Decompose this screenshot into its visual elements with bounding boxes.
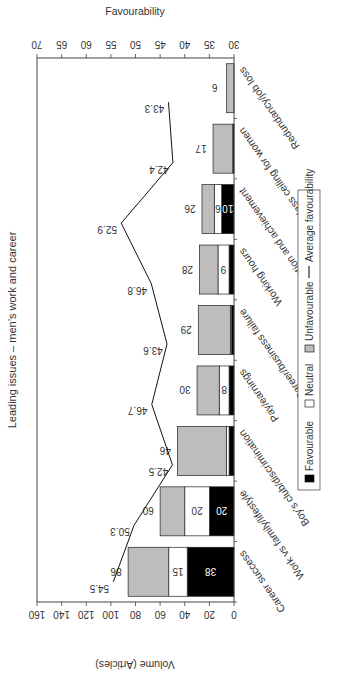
volume-tick-label: 40 — [179, 609, 191, 620]
volume-tick-label: 20 — [203, 609, 215, 620]
legend-swatch-unfavourable-icon — [305, 345, 314, 352]
bar-segment-unfavourable — [128, 547, 169, 596]
total-value-label: 6 — [211, 82, 217, 93]
legend-label-favourable: Favourable — [304, 421, 315, 471]
total-value-label: 17 — [195, 143, 207, 154]
total-value-label: 29 — [180, 324, 192, 335]
chart-title: Leading issues – men’s work and career — [6, 231, 18, 428]
favourability-tick-label: 40 — [179, 39, 191, 50]
bars-group: 381586202060468302992810626176 — [110, 64, 237, 602]
favourability-value-label: 42.5 — [148, 466, 168, 477]
bar-segment-favourable — [229, 366, 234, 415]
category-label: Working hours — [236, 246, 285, 308]
favourability-value-label: 46.8 — [127, 285, 147, 296]
total-value-label: 28 — [182, 264, 194, 275]
legend-label-unfavourable: Unfavourable — [304, 281, 315, 341]
total-value-label: 60 — [142, 505, 154, 516]
volume-tick-label: 140 — [53, 609, 70, 620]
favourability-tick-label: 65 — [56, 39, 68, 50]
stacked-bar-line-chart: Leading issues – men’s work and career 3… — [0, 0, 341, 683]
neutral-value-label: 8 — [221, 384, 227, 395]
favourability-value-label: 43.6 — [143, 345, 163, 356]
neutral-value-label: 9 — [220, 264, 226, 275]
favourability-value-label: 54.5 — [89, 583, 109, 594]
favourable-value-label: 38 — [205, 566, 217, 577]
volume-tick-label: 60 — [154, 609, 166, 620]
volume-tick-label: 80 — [130, 609, 142, 620]
favourability-axis: 303540455055606570 — [31, 39, 240, 58]
favourable-value-label: 20 — [216, 505, 228, 516]
volume-tick-label: 0 — [231, 609, 237, 620]
rotated-chart-stage: Leading issues – men’s work and career 3… — [0, 0, 341, 683]
favourability-tick-label: 60 — [80, 39, 92, 50]
total-value-label: 26 — [184, 203, 196, 214]
bar-segment-unfavourable — [177, 426, 226, 475]
legend: Favourable Neutral Unfavourable Average … — [298, 169, 320, 490]
favourability-value-label: 50.3 — [110, 526, 130, 537]
favourable-value-label: 10 — [222, 203, 234, 214]
bar-segment-favourable — [229, 426, 234, 475]
bar-segment-unfavourable — [198, 306, 230, 355]
volume-axis-label: Volume (Articles) — [95, 659, 174, 671]
bar-segment-unfavourable — [197, 366, 219, 415]
favourability-tick-label: 50 — [130, 39, 142, 50]
legend-label-neutral: Neutral — [304, 364, 315, 396]
volume-axis: 020406080100120140160 — [28, 602, 237, 620]
favourability-value-label: 46.7 — [128, 405, 148, 416]
favourability-value-label: 42.4 — [149, 164, 169, 175]
bar-segment-unfavourable — [213, 124, 233, 173]
favourability-tick-label: 35 — [203, 39, 215, 50]
neutral-value-label: 6 — [215, 203, 221, 214]
favourability-value-label: 52.9 — [97, 224, 117, 235]
total-value-label: 30 — [179, 384, 191, 395]
volume-tick-label: 160 — [28, 609, 45, 620]
legend-swatch-favourable-icon — [305, 475, 314, 482]
bar-segment-favourable — [229, 245, 234, 294]
favourability-tick-label: 55 — [105, 39, 117, 50]
neutral-value-label: 15 — [172, 566, 184, 577]
legend-swatch-neutral-icon — [305, 400, 314, 407]
favourability-axis-label: Favourability — [105, 5, 165, 17]
volume-tick-label: 100 — [102, 609, 119, 620]
bar-segment-unfavourable — [202, 185, 214, 234]
volume-tick-label: 120 — [77, 609, 94, 620]
legend-label-average-favourability: Average favourability — [304, 169, 315, 262]
favourability-tick-label: 30 — [228, 39, 240, 50]
favourability-tick-label: 45 — [154, 39, 166, 50]
favourability-tick-label: 70 — [31, 39, 43, 50]
bar-segment-unfavourable — [160, 487, 185, 536]
category-label: Pay/earnings — [236, 367, 281, 424]
favourability-value-label: 43.3 — [144, 103, 164, 114]
bar-segment-unfavourable — [200, 245, 218, 294]
bar-segment-neutral — [227, 426, 229, 475]
neutral-value-label: 20 — [191, 505, 203, 516]
bar-segment-unfavourable — [227, 64, 234, 113]
